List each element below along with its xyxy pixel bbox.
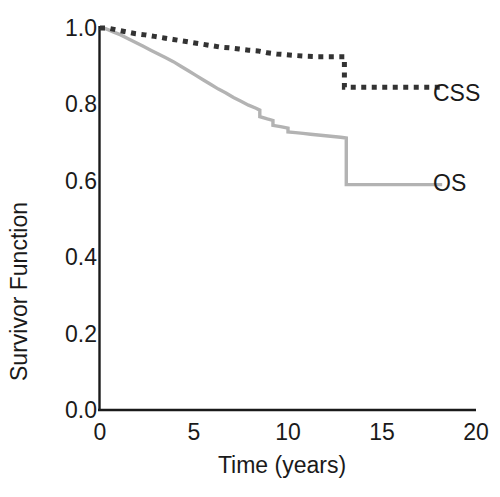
x-tick-label: 10 (275, 419, 301, 446)
series-line-css (100, 28, 442, 87)
y-tick-label: 1.0 (65, 15, 97, 42)
x-tick-label: 15 (369, 419, 395, 446)
y-tick-label: 0.8 (65, 91, 97, 118)
axis-lines (98, 26, 476, 411)
series-label-css: CSS (433, 80, 480, 107)
y-axis-title: Survivor Function (6, 0, 42, 497)
y-tick-label: 0.2 (65, 320, 97, 347)
x-tick-label: 5 (188, 419, 201, 446)
series-label-os: OS (433, 170, 466, 197)
y-tick-label: 0.6 (65, 167, 97, 194)
y-tick-label: 0.4 (65, 244, 97, 271)
series-paths (100, 28, 442, 185)
x-tick-label: 0 (94, 419, 107, 446)
x-tick-label: 20 (463, 419, 489, 446)
survival-curve-figure: 0.00.20.40.60.81.0 05101520 Survivor Fun… (0, 0, 500, 497)
x-axis-title: Time (years) (0, 452, 500, 479)
y-tick-label: 0.0 (65, 397, 97, 424)
